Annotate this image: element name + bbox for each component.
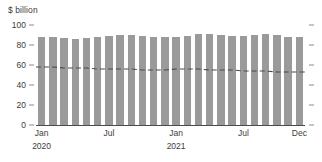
x-axis-labels: Jan2020JulJan2021JulDec bbox=[36, 128, 305, 160]
y-tick-mark bbox=[29, 125, 34, 126]
x-tick-month: Jan bbox=[35, 128, 49, 138]
x-tick-month: Jul bbox=[103, 128, 114, 138]
bar bbox=[83, 38, 90, 125]
bar bbox=[72, 39, 79, 125]
y-tick-label: 20 bbox=[17, 100, 26, 110]
y-tick-mark bbox=[29, 65, 34, 66]
y-tick-mark bbox=[29, 25, 34, 26]
bar bbox=[60, 38, 67, 125]
bar bbox=[128, 35, 135, 125]
bar bbox=[184, 36, 191, 125]
y-tick-mark bbox=[29, 85, 34, 86]
bar bbox=[251, 35, 258, 125]
x-tick-month: Jan bbox=[169, 128, 183, 138]
bar bbox=[150, 37, 157, 125]
bar bbox=[116, 35, 123, 125]
bar bbox=[172, 37, 179, 125]
bar bbox=[38, 37, 45, 125]
y-tick-mark bbox=[309, 85, 314, 86]
y-axis-ticks-right bbox=[309, 25, 315, 125]
bar bbox=[49, 37, 56, 125]
y-tick-mark bbox=[309, 45, 314, 46]
x-tick-label: Jan2020 bbox=[32, 128, 51, 152]
bar bbox=[206, 34, 213, 125]
x-tick-month: Dec bbox=[292, 128, 307, 138]
bar bbox=[195, 34, 202, 125]
axis-title: $ billion bbox=[8, 5, 38, 15]
y-tick-mark bbox=[29, 45, 34, 46]
y-tick-mark bbox=[309, 125, 314, 126]
bar bbox=[228, 36, 235, 125]
y-tick-mark bbox=[309, 105, 314, 106]
y-tick-label: 100 bbox=[12, 20, 26, 30]
bar bbox=[139, 36, 146, 125]
y-tick-mark bbox=[309, 65, 314, 66]
x-axis-line bbox=[36, 125, 305, 126]
bar bbox=[94, 37, 101, 125]
x-tick-month: Jul bbox=[238, 128, 249, 138]
x-tick-label: Dec bbox=[292, 128, 307, 139]
y-axis-ticks-left bbox=[29, 25, 35, 125]
bar bbox=[262, 34, 269, 125]
bar bbox=[273, 35, 280, 125]
bar bbox=[240, 36, 247, 125]
y-axis-labels: 020406080100 bbox=[0, 25, 26, 125]
y-tick-label: 60 bbox=[17, 60, 26, 70]
bar bbox=[105, 36, 112, 125]
y-tick-mark bbox=[309, 25, 314, 26]
x-tick-year: 2020 bbox=[32, 141, 51, 152]
y-tick-label: 0 bbox=[21, 120, 26, 130]
plot-area bbox=[36, 25, 305, 125]
chart-container: $ billion 020406080100 Jan2020JulJan2021… bbox=[0, 0, 322, 162]
x-tick-label: Jul bbox=[103, 128, 114, 139]
y-tick-label: 80 bbox=[17, 40, 26, 50]
bar bbox=[284, 37, 291, 125]
y-tick-label: 40 bbox=[17, 80, 26, 90]
x-tick-label: Jan2021 bbox=[167, 128, 186, 152]
bar bbox=[217, 35, 224, 125]
x-tick-label: Jul bbox=[238, 128, 249, 139]
bar bbox=[296, 37, 303, 125]
bar-series bbox=[36, 25, 305, 125]
bar bbox=[161, 37, 168, 125]
y-tick-mark bbox=[29, 105, 34, 106]
x-tick-year: 2021 bbox=[167, 141, 186, 152]
